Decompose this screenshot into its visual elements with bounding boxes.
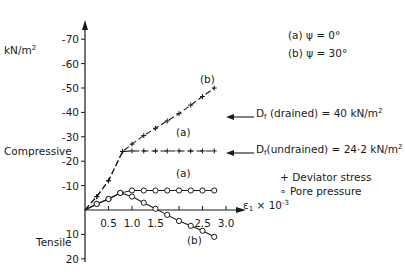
circle-marker-icon: [106, 196, 111, 201]
circle-marker-icon: [129, 188, 134, 193]
y-axis-unit-label: kN/m2: [4, 45, 36, 56]
compressive-label: Compressive: [4, 146, 72, 157]
curve-label-a-pore: (a): [176, 168, 191, 179]
circle-marker-icon: [188, 188, 193, 193]
axes: -70-60-50-40-30-20-1010200.51.01.52.53.0: [62, 20, 246, 265]
x-tick-label: 3.0: [218, 217, 235, 229]
annotation-undrained: Df(undrained) = 24·2 kN/m2: [256, 144, 403, 157]
x-axis-label: ε1 × 10-3: [243, 200, 289, 213]
y-tick-label: -60: [62, 58, 79, 70]
y-tick-label: -40: [62, 106, 79, 118]
y-tick-label: 20: [66, 253, 79, 265]
circle-marker-icon: [94, 201, 99, 206]
x-tick-label: 0.5: [100, 217, 117, 229]
series-line: [85, 88, 214, 210]
legend-deviator-stress: + Deviator stress: [280, 172, 372, 183]
annotation-arrows: [226, 114, 254, 156]
y-tick-label: -10: [62, 180, 79, 192]
circle-marker-icon: [165, 188, 170, 193]
circle-marker-icon: [118, 190, 123, 195]
circle-marker-icon: [212, 188, 217, 193]
condition-b-label: (b) ψ = 30°: [288, 48, 347, 59]
series-line: [85, 193, 214, 237]
circle-marker-icon: [141, 200, 146, 205]
circle-marker-icon: [165, 212, 170, 217]
circle-marker-icon: [188, 223, 193, 228]
condition-a-label: (a) ψ = 0°: [288, 30, 340, 41]
curve-label-b-deviator: (b): [200, 74, 215, 85]
curve-label-b-pore: (b): [187, 235, 202, 246]
circle-marker-icon: [200, 228, 205, 233]
curve-label-a-deviator: (a): [176, 127, 191, 138]
y-tick-label: -70: [62, 33, 79, 45]
legend-pore-pressure: ∘ Pore pressure: [280, 186, 362, 197]
circle-marker-icon: [212, 234, 217, 239]
x-tick-label: 1.0: [124, 217, 141, 229]
circle-marker-icon: [129, 194, 134, 199]
circle-marker-icon: [200, 188, 205, 193]
circle-marker-icon: [153, 188, 158, 193]
circle-marker-icon: [141, 188, 146, 193]
x-tick-label: 2.5: [194, 217, 211, 229]
y-tick-label: -20: [62, 155, 79, 167]
arrow-left-icon: [226, 150, 234, 156]
y-tick-label: -50: [62, 82, 79, 94]
circle-marker-icon: [176, 188, 181, 193]
y-axis-arrow-icon: [82, 20, 88, 30]
arrow-left-icon: [226, 114, 234, 120]
y-tick-label: -30: [62, 131, 79, 143]
tensile-label: Tensile: [36, 237, 72, 248]
annotation-drained: Df (drained) = 40 kN/m2: [256, 108, 383, 121]
chart-canvas: -70-60-50-40-30-20-1010200.51.01.52.53.0: [0, 0, 405, 274]
circle-marker-icon: [176, 218, 181, 223]
x-tick-label: 1.5: [147, 217, 164, 229]
circle-marker-icon: [153, 206, 158, 211]
